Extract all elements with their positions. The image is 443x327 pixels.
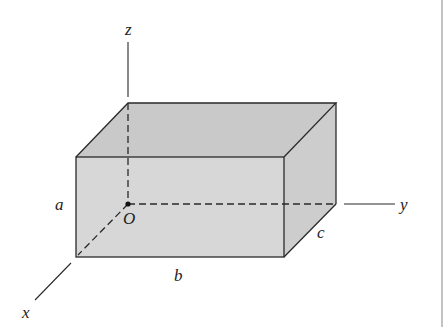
origin-label: O xyxy=(123,209,135,228)
z-axis-label: z xyxy=(124,20,132,39)
dimension-c-label: c xyxy=(317,223,325,242)
x-axis-label: x xyxy=(21,303,30,322)
x-axis xyxy=(35,263,71,300)
box-diagram: z y x O a b c xyxy=(0,0,443,327)
dimension-a-label: a xyxy=(55,195,64,214)
dimension-b-label: b xyxy=(174,266,183,285)
y-axis-label: y xyxy=(398,195,408,214)
origin-point xyxy=(125,201,130,206)
box-front-face xyxy=(76,157,284,257)
